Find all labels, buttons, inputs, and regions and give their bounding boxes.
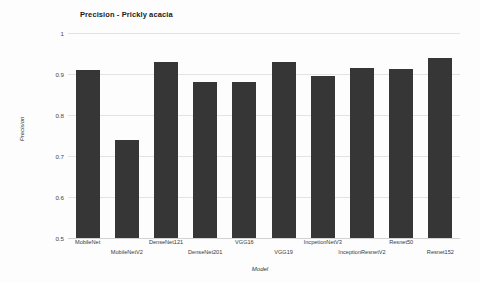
x-tick-label: IncpetionNetV3 [304,239,342,245]
bar [115,140,139,238]
x-tick-label: Resnet50 [389,239,413,245]
x-tick-label: MobileNet [75,239,100,245]
y-tick-label: 0.7 [40,153,64,160]
y-tick-label: 1 [40,30,64,37]
x-tick-label: Resnet152 [427,249,454,255]
y-axis-title: Precision [19,99,25,159]
bar [154,62,178,238]
chart-title: Precision - Prickly acacia [80,10,173,19]
precision-bar-chart: Precision - Prickly acacia Precision 0.5… [0,0,480,283]
y-axis-tick-labels: 0.50.60.70.80.91 [36,33,64,238]
x-axis-tick-labels: MobileNetMobileNetV2DenseNet121DenseNet2… [68,239,460,265]
bar [232,82,256,238]
bar [389,69,413,238]
bar [311,76,335,238]
bar [350,68,374,238]
bar [193,82,217,238]
bar [272,62,296,238]
x-tick-label: DenseNet201 [188,249,222,255]
gridline [68,33,460,34]
x-tick-label: VGG16 [235,239,254,245]
y-tick-label: 0.8 [40,112,64,119]
y-tick-label: 0.9 [40,71,64,78]
y-tick-label: 0.5 [40,235,64,242]
y-tick-label: 0.6 [40,194,64,201]
bar [428,58,452,238]
plot-area [68,33,460,238]
x-axis-title: Model [0,266,480,272]
x-tick-label: DenseNet121 [149,239,183,245]
x-tick-label: MobileNetV2 [111,249,143,255]
bar [76,70,100,238]
x-tick-label: VGG19 [274,249,293,255]
x-tick-label: InceptionResnetV2 [338,249,385,255]
